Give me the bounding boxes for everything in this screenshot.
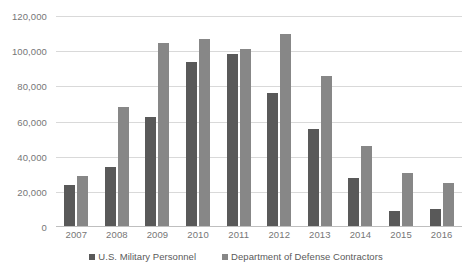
bar[interactable] (158, 43, 169, 227)
bar[interactable] (348, 178, 359, 227)
y-tick-label: 80,000 (17, 81, 47, 92)
bar-group (340, 16, 381, 227)
x-tick-label: 2010 (178, 229, 219, 240)
legend-label: U.S. Military Personnel (98, 251, 196, 262)
bar-group (421, 16, 462, 227)
legend-swatch-icon (89, 254, 95, 260)
y-axis: 020,00040,00060,00080,000100,000120,000 (0, 0, 52, 240)
bar-group (178, 16, 219, 227)
bar[interactable] (118, 107, 129, 227)
bar[interactable] (321, 76, 332, 227)
plot-area (56, 16, 462, 227)
bar-group (56, 16, 97, 227)
x-tick-label: 2016 (421, 229, 462, 240)
bar-chart: 020,00040,00060,00080,000100,000120,000 … (0, 0, 472, 275)
y-tick-label: 60,000 (17, 116, 47, 127)
bar[interactable] (77, 176, 88, 227)
x-tick-label: 2009 (137, 229, 178, 240)
x-tick-label: 2015 (381, 229, 422, 240)
bar[interactable] (280, 34, 291, 227)
chart-legend: U.S. Military PersonnelDepartment of Def… (0, 251, 472, 262)
bar[interactable] (361, 146, 372, 227)
bar[interactable] (430, 209, 441, 227)
bar[interactable] (267, 93, 278, 227)
x-tick-label: 2007 (56, 229, 97, 240)
bar-group (259, 16, 300, 227)
bar[interactable] (199, 39, 210, 227)
bar-group (97, 16, 138, 227)
bar[interactable] (240, 49, 251, 227)
x-axis: 2007200820092010201120122013201420152016 (56, 229, 462, 240)
legend-item[interactable]: U.S. Military Personnel (89, 251, 196, 262)
bar[interactable] (402, 173, 413, 228)
bar[interactable] (105, 167, 116, 227)
bar-group (218, 16, 259, 227)
bar[interactable] (389, 211, 400, 227)
y-tick-label: 0 (42, 222, 47, 233)
legend-swatch-icon (222, 254, 228, 260)
y-tick-label: 40,000 (17, 151, 47, 162)
legend-item[interactable]: Department of Defense Contractors (222, 251, 383, 262)
y-tick-label: 120,000 (12, 11, 47, 22)
legend-label: Department of Defense Contractors (231, 251, 383, 262)
x-tick-label: 2013 (300, 229, 341, 240)
bar[interactable] (145, 117, 156, 227)
x-tick-label: 2014 (340, 229, 381, 240)
x-axis-line (56, 226, 462, 227)
x-tick-label: 2011 (218, 229, 259, 240)
bar-group (137, 16, 178, 227)
bar-group (381, 16, 422, 227)
bar[interactable] (443, 183, 454, 227)
bar[interactable] (186, 62, 197, 227)
bar[interactable] (308, 129, 319, 227)
bar[interactable] (64, 185, 75, 227)
bar-groups (56, 16, 462, 227)
y-tick-label: 100,000 (12, 46, 47, 57)
bar-group (300, 16, 341, 227)
x-tick-label: 2012 (259, 229, 300, 240)
y-tick-label: 20,000 (17, 186, 47, 197)
bar[interactable] (227, 54, 238, 227)
x-tick-label: 2008 (97, 229, 138, 240)
